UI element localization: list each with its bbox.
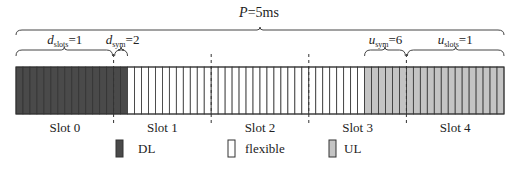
symbol-ul: [406, 67, 413, 114]
tdd-slot-diagram: P=5ms dslots=1 dsym=2 usym=6 uslots=1 Sl…: [0, 0, 519, 176]
symbol-dl: [58, 67, 65, 114]
symbol-flexible: [211, 67, 218, 114]
symbol-flexible: [274, 67, 281, 114]
dl-slots-label: dslots=1: [47, 32, 82, 49]
dl-sym-brace: dsym=2: [106, 32, 140, 56]
symbol-ul: [441, 67, 448, 114]
symbol-flexible: [351, 67, 358, 114]
symbol-ul: [379, 67, 386, 114]
symbol-flexible: [246, 67, 253, 114]
symbol-ul: [497, 67, 504, 114]
symbol-ul: [455, 67, 462, 114]
legend-swatch-ul: [329, 140, 336, 157]
symbol-ul: [434, 67, 441, 114]
dl-sym-label: dsym=2: [106, 32, 140, 49]
symbol-dl: [23, 67, 30, 114]
symbol-flexible: [323, 67, 330, 114]
symbol-flexible: [148, 67, 155, 114]
slot-label-0: Slot 0: [49, 120, 80, 135]
ul-sym-brace: usym=6: [365, 32, 406, 56]
symbol-dl: [93, 67, 100, 114]
legend-item-flexible: flexible: [228, 140, 285, 157]
symbol-dl: [44, 67, 51, 114]
ul-slots-brace: uslots=1: [407, 32, 504, 56]
symbol-flexible: [155, 67, 162, 114]
symbol-ul: [483, 67, 490, 114]
symbol-flexible: [309, 67, 316, 114]
symbol-ul: [413, 67, 420, 114]
legend-label-dl: DL: [138, 141, 155, 156]
symbol-ul: [462, 67, 469, 114]
symbol-flexible: [358, 67, 365, 114]
symbol-ul: [385, 67, 392, 114]
symbol-ul: [490, 67, 497, 114]
symbol-flexible: [239, 67, 246, 114]
symbol-flexible: [225, 67, 232, 114]
symbol-flexible: [288, 67, 295, 114]
symbol-flexible: [316, 67, 323, 114]
ul-slots-label: uslots=1: [438, 32, 473, 49]
symbol-dl: [37, 67, 44, 114]
symbol-flexible: [162, 67, 169, 114]
slot-label-3: Slot 3: [342, 120, 373, 135]
symbol-dl: [107, 67, 114, 114]
legend-item-ul: UL: [329, 140, 361, 157]
symbol-dl: [79, 67, 86, 114]
symbol-flexible: [176, 67, 183, 114]
symbol-flexible: [169, 67, 176, 114]
symbol-flexible: [232, 67, 239, 114]
symbol-dl: [72, 67, 79, 114]
symbol-flexible: [204, 67, 211, 114]
symbol-dl: [65, 67, 72, 114]
legend: DL flexible UL: [116, 140, 361, 157]
dl-slots-brace: dslots=1: [16, 32, 113, 56]
symbol-flexible: [344, 67, 351, 114]
symbol-ul: [469, 67, 476, 114]
symbol-flexible: [135, 67, 142, 114]
symbol-ul: [399, 67, 406, 114]
symbol-dl: [16, 67, 23, 114]
symbol-ul: [448, 67, 455, 114]
symbol-ul: [372, 67, 379, 114]
symbol-ul: [476, 67, 483, 114]
symbol-dl: [86, 67, 93, 114]
symbol-flexible: [183, 67, 190, 114]
legend-label-flexible: flexible: [245, 141, 285, 156]
ul-sym-label: usym=6: [369, 32, 403, 49]
slot-labels: Slot 0 Slot 1 Slot 2 Slot 3 Slot 4: [49, 120, 471, 135]
legend-item-dl: DL: [116, 140, 155, 157]
symbol-flexible: [190, 67, 197, 114]
symbol-flexible: [302, 67, 309, 114]
symbol-dl: [30, 67, 37, 114]
symbol-flexible: [330, 67, 337, 114]
legend-label-ul: UL: [344, 141, 361, 156]
symbol-dl: [51, 67, 58, 114]
symbol-flexible: [253, 67, 260, 114]
symbol-flexible: [267, 67, 274, 114]
symbol-dl: [121, 67, 128, 114]
symbol-bar: [16, 67, 504, 114]
symbol-flexible: [197, 67, 204, 114]
symbol-flexible: [260, 67, 267, 114]
legend-swatch-dl: [116, 140, 123, 157]
symbol-flexible: [337, 67, 344, 114]
symbol-flexible: [128, 67, 135, 114]
symbol-ul: [420, 67, 427, 114]
slot-label-2: Slot 2: [245, 120, 276, 135]
symbol-flexible: [218, 67, 225, 114]
legend-swatch-flexible: [228, 140, 235, 157]
symbol-ul: [427, 67, 434, 114]
symbol-flexible: [295, 67, 302, 114]
symbol-ul: [365, 67, 372, 114]
symbol-dl: [114, 67, 121, 114]
symbol-flexible: [141, 67, 148, 114]
symbol-flexible: [281, 67, 288, 114]
slot-label-1: Slot 1: [147, 120, 178, 135]
symbol-dl: [100, 67, 107, 114]
period-label: P=5ms: [238, 5, 279, 20]
symbol-ul: [392, 67, 399, 114]
period-brace: P=5ms: [16, 5, 504, 35]
slot-label-4: Slot 4: [440, 120, 471, 135]
